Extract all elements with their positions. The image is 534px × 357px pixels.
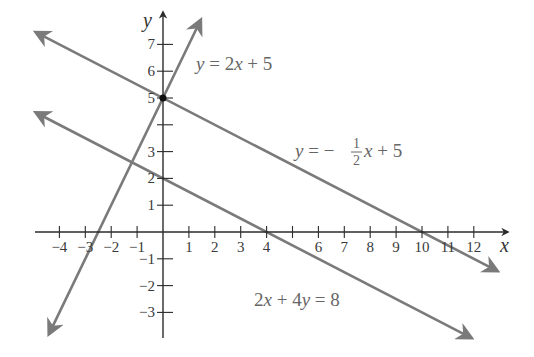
eq1-coef: 2	[225, 53, 235, 74]
svg-text:x + 5: x + 5	[363, 140, 402, 161]
eq2-numerator: 1	[353, 136, 360, 151]
x-tick-label: 12	[466, 239, 481, 255]
x-tick-label: 11	[441, 239, 455, 255]
x-tick-label: 9	[392, 239, 400, 255]
x-tick-label: 6	[315, 239, 323, 255]
eq1-const: + 5	[243, 53, 273, 74]
line-1	[49, 20, 201, 334]
x-tick-label: 3	[237, 239, 245, 255]
y-tick-label: 6	[148, 63, 156, 79]
y-tick-label: 5	[148, 90, 156, 106]
intersection-point	[160, 95, 167, 102]
eq2-rel: = −	[303, 140, 334, 161]
svg-text:y = −: y = −	[293, 140, 334, 161]
eq1-lhs: y	[194, 53, 205, 74]
x-axis-label: x	[499, 234, 509, 256]
y-axis-label: y	[141, 9, 152, 32]
eq2-lhs: y	[293, 140, 304, 161]
eq3-mid: + 4	[272, 289, 302, 310]
coordinate-graph: −4−3−2−112346789101112 −3−2−1123567 x y …	[0, 0, 534, 357]
equation-label-3: 2x + 4y = 8	[254, 289, 340, 310]
y-tick-label: 3	[148, 144, 156, 160]
equation-label-1: y = 2x + 5	[194, 53, 272, 74]
x-tick-labels: −4−3−2−112346789101112	[51, 239, 481, 255]
x-tick-label: 2	[211, 239, 219, 255]
x-tick-label: −2	[103, 239, 119, 255]
equation-label-2: y = − 1 2 x + 5	[293, 136, 402, 168]
y-tick-label: 1	[148, 197, 156, 213]
y-tick-label: −1	[139, 251, 155, 267]
x-tick-label: 7	[341, 239, 349, 255]
y-tick-labels: −3−2−1123567	[139, 36, 155, 320]
y-tick-label: 7	[148, 36, 156, 52]
eq2-denominator: 2	[353, 153, 360, 168]
x-tick-label: −4	[51, 239, 67, 255]
x-tick-label: 8	[366, 239, 374, 255]
y-tick-label: −3	[139, 304, 155, 320]
eq3-v2: y	[300, 289, 311, 310]
x-tick-label: −3	[77, 239, 93, 255]
x-tick-label: 10	[415, 239, 430, 255]
eq3-a: 2	[254, 289, 264, 310]
eq1-rel: =	[204, 53, 224, 74]
eq3-rhs: = 8	[310, 289, 340, 310]
y-tick-label: 2	[148, 170, 156, 186]
eq2-const: + 5	[372, 140, 402, 161]
y-tick-label: −2	[139, 278, 155, 294]
x-tick-label: 4	[263, 239, 271, 255]
x-tick-label: 1	[185, 239, 193, 255]
